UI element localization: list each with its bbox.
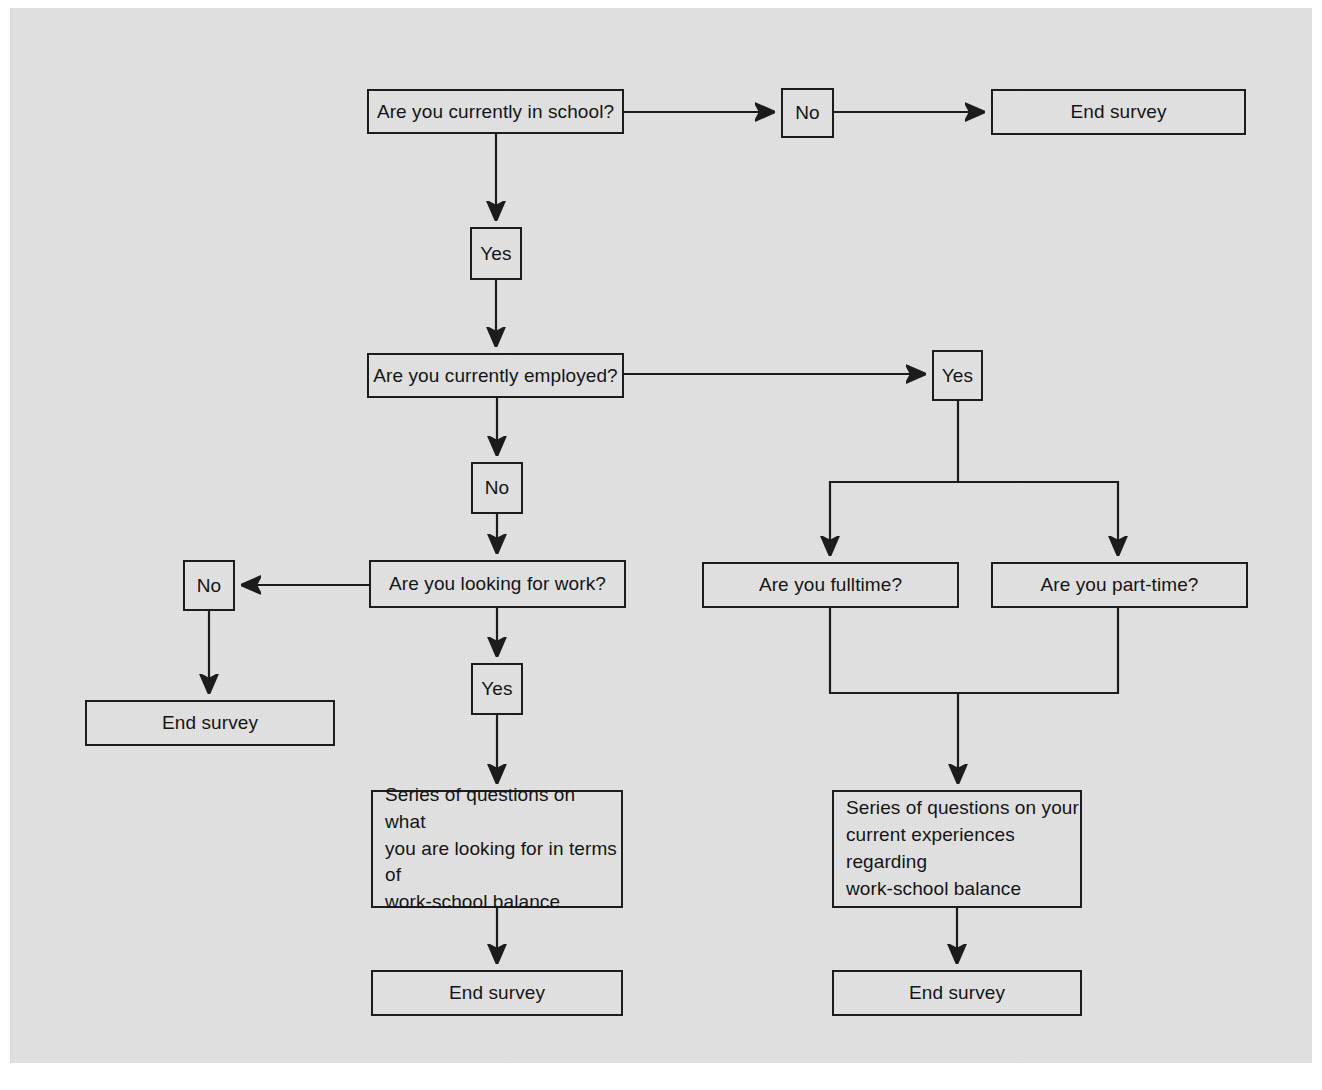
node-question-fulltime[interactable]: Are you fulltime? [702, 562, 959, 608]
flowchart-connector-layer [0, 0, 1322, 1090]
node-answer-employed-no[interactable]: No [471, 462, 523, 514]
node-series-questions-looking-for[interactable]: Series of questions on what you are look… [371, 790, 623, 908]
edge-fulltime-parttime-merge [830, 608, 1118, 782]
node-end-survey-top[interactable]: End survey [991, 89, 1246, 135]
node-question-in-school[interactable]: Are you currently in school? [367, 89, 624, 134]
node-end-survey-left[interactable]: End survey [85, 700, 335, 746]
node-question-looking-for-work[interactable]: Are you looking for work? [369, 560, 626, 608]
node-answer-looking-yes[interactable]: Yes [471, 663, 523, 715]
node-answer-employed-yes[interactable]: Yes [932, 350, 983, 401]
node-answer-school-no[interactable]: No [781, 88, 834, 138]
edge-yes-split-fulltime-parttime [830, 401, 1118, 554]
node-answer-school-yes[interactable]: Yes [470, 227, 522, 280]
node-question-currently-employed[interactable]: Are you currently employed? [367, 353, 624, 398]
node-answer-looking-no[interactable]: No [183, 560, 235, 611]
flowchart-page: Are you currently in school? No End surv… [0, 0, 1322, 1090]
node-question-parttime[interactable]: Are you part-time? [991, 562, 1248, 608]
node-end-survey-bottom-left[interactable]: End survey [371, 970, 623, 1016]
node-end-survey-bottom-right[interactable]: End survey [832, 970, 1082, 1016]
node-series-questions-current-experiences[interactable]: Series of questions on your current expe… [832, 790, 1082, 908]
